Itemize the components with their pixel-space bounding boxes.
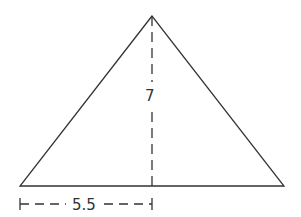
triangle-diagram: 7 5.5	[0, 0, 301, 217]
half-base-label: 5.5	[72, 196, 96, 214]
half-base-dimension: 5.5	[20, 196, 152, 214]
height-label: 7	[145, 87, 155, 105]
